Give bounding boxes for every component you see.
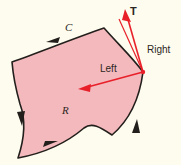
tangent-label: T (130, 6, 137, 17)
figure-canvas (0, 0, 181, 165)
region-label: R (62, 105, 69, 116)
left-side-label: Left (100, 64, 117, 74)
curve-label: C (65, 22, 72, 33)
region-r-shape (12, 28, 143, 158)
boundary-anchor-point (141, 70, 145, 74)
right-side-label: Right (147, 45, 170, 55)
orientation-arrow-right (132, 119, 140, 133)
orientation-arrow-top (46, 37, 60, 43)
orientation-figure: C R T Right Left (0, 0, 181, 165)
